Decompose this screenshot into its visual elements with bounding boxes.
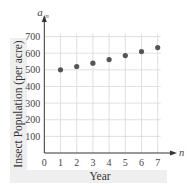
x-tick-label: 2 [74, 157, 79, 168]
y-tick-label: 400 [25, 81, 40, 92]
x-axis-symbol: n [179, 147, 184, 158]
data-point [123, 53, 128, 58]
y-tick-label: 200 [25, 114, 40, 125]
y-tick-label: 600 [25, 48, 40, 59]
y-tick-label: 700 [25, 31, 40, 42]
plot-area: 10020030040050060070001234567nan [0, 0, 187, 189]
chart: Insect Population (per acre) Year 100200… [0, 0, 187, 189]
x-tick-label: 1 [58, 157, 63, 168]
y-axis-symbol: a [37, 6, 43, 18]
data-point [155, 45, 160, 50]
x-tick-label: 5 [123, 157, 128, 168]
y-tick-label: 500 [25, 64, 40, 75]
y-tick-label: 300 [25, 98, 40, 109]
y-tick-label: 100 [25, 131, 40, 142]
x-tick-label: 7 [155, 157, 160, 168]
data-point [107, 57, 112, 62]
x-tick-label: 0 [42, 157, 47, 168]
data-point [74, 64, 79, 69]
data-point [139, 49, 144, 54]
x-tick-label: 4 [107, 157, 112, 168]
data-point [90, 61, 95, 66]
x-axis-arrow-icon [170, 151, 177, 156]
data-point [58, 67, 63, 72]
x-tick-label: 3 [90, 157, 95, 168]
y-axis-symbol-subscript: n [45, 12, 49, 20]
x-tick-label: 6 [139, 157, 144, 168]
